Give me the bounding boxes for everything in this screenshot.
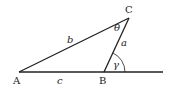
vertex-label-c: C <box>125 4 133 15</box>
side-label-c: c <box>57 75 63 86</box>
vertex-label-a: A <box>12 75 21 86</box>
side-label-b: b <box>67 34 73 45</box>
triangle-diagram: C θ a b γ A c B <box>0 0 170 90</box>
side-label-a: a <box>121 37 127 48</box>
angle-label-gamma: γ <box>113 59 119 70</box>
angle-label-theta: θ <box>114 22 120 33</box>
vertex-label-b: B <box>99 75 106 86</box>
